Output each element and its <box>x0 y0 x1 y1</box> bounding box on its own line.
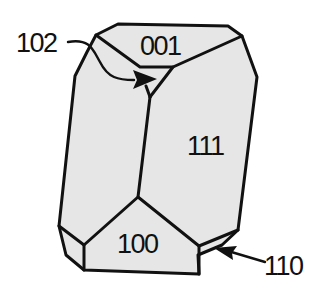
callout-110-leader <box>228 251 265 262</box>
face-001-label: 001 <box>140 31 181 61</box>
crystal-outline <box>59 24 257 274</box>
crystal-diagram: 001 111 100 102 110 <box>0 0 326 292</box>
crystal-svg: 001 111 100 102 110 <box>0 0 326 292</box>
face-111-label: 111 <box>187 131 224 161</box>
face-100-label: 100 <box>117 229 158 259</box>
callout-102-label: 102 <box>16 28 57 58</box>
callout-110-label: 110 <box>264 251 303 281</box>
